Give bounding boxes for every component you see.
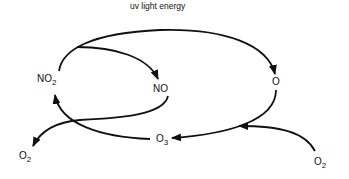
node-o3-sub: 3 <box>164 138 168 147</box>
node-no2-sub: 2 <box>52 78 56 87</box>
arrows-layer <box>0 0 349 179</box>
arrow-no2-to-no <box>77 47 158 79</box>
node-o-base: O <box>272 76 280 87</box>
node-o3-base: O <box>156 133 164 144</box>
arrow-o-to-o3 <box>172 90 276 138</box>
node-o2-right: O2 <box>314 157 326 171</box>
ozone-cycle-diagram: uv light energy NO2 NO O O3 O2 O2 <box>0 0 349 179</box>
arrow-no2-to-o <box>59 30 275 74</box>
node-o3: O3 <box>156 134 168 148</box>
uv-light-energy-label: uv light energy <box>130 1 185 11</box>
node-no2: NO2 <box>37 74 56 88</box>
node-o2-left-sub: 2 <box>27 155 31 164</box>
node-no2-base: NO <box>37 73 52 84</box>
node-o2-right-sub: 2 <box>322 161 326 170</box>
node-no: NO <box>153 84 168 94</box>
arrow-o2-right-to-o3 <box>239 126 315 151</box>
node-o2-left: O2 <box>19 151 31 165</box>
node-no-base: NO <box>153 83 168 94</box>
node-o: O <box>272 77 280 87</box>
arrow-o3-to-no2 <box>55 95 150 139</box>
node-o2-left-base: O <box>19 150 27 161</box>
node-o2-right-base: O <box>314 156 322 167</box>
